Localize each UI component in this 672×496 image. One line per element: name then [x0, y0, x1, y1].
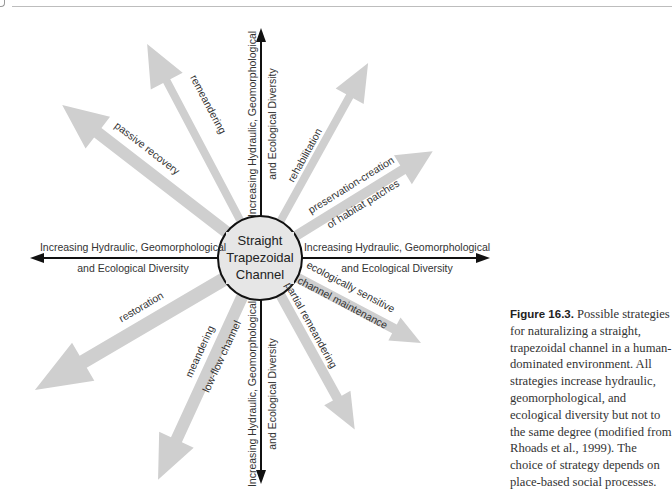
axis-down-label-line2: and Ecological Diversity: [266, 338, 278, 450]
center-label-line2: Trapezoidal: [226, 250, 294, 265]
arrow-right-icon: [476, 253, 490, 263]
axis-left-label-line2: and Ecological Diversity: [77, 262, 189, 274]
caption-text: Possible strategies for naturalizing a s…: [510, 307, 672, 489]
axis-right-label-line2: and Ecological Diversity: [341, 262, 453, 274]
figure-caption: Figure 16.3. Possible strategies for nat…: [510, 306, 672, 491]
axis-right-label-line1: Increasing Hydraulic, Geomorphological: [304, 241, 490, 253]
center-label-line3: Channel: [236, 267, 285, 282]
figure-number: Figure 16.3.: [510, 308, 574, 320]
axis-down-label-line1: Increasing Hydraulic, Geomorphological: [246, 301, 258, 487]
center-label-line1: Straight: [238, 233, 283, 248]
arrow-left-icon: [30, 253, 44, 263]
axis-up-label-line2: and Ecological Diversity: [266, 68, 278, 180]
label-habitat-patches: of habitat patches: [324, 177, 401, 231]
axis-left-label-line1: Increasing Hydraulic, Geomorphological: [40, 241, 226, 253]
axis-up-label-line1: Increasing Hydraulic, Geomorphological: [246, 31, 258, 217]
